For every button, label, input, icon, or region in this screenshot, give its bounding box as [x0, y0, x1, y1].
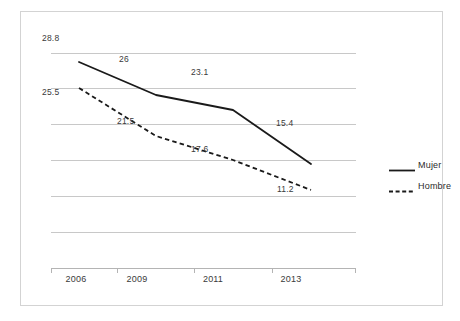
x-axis-tick-2 — [194, 268, 195, 273]
data-label-mujer-2009: 26 — [119, 54, 129, 64]
series-plot — [51, 47, 356, 275]
chart-frame: 28.8 26 23.1 15.4 25.5 21.5 17.6 11.2 20… — [20, 11, 443, 306]
x-tick-label-2009: 2009 — [117, 274, 157, 284]
x-tick-label-2011: 2011 — [193, 274, 233, 284]
x-tick-label-2006: 2006 — [56, 274, 96, 284]
chart-legend: Mujer Hombre — [389, 158, 460, 198]
data-label-hombre-2013: 11.2 — [277, 184, 294, 194]
x-tick-label-2013: 2013 — [271, 274, 311, 284]
legend-swatch-mujer-solid-line — [389, 161, 415, 170]
legend-swatch-hombre-dashed-line — [389, 182, 415, 191]
plot-area — [51, 47, 356, 275]
x-axis-tick-1 — [117, 268, 118, 273]
x-axis-tick-3 — [272, 268, 273, 273]
data-label-mujer-2011: 23.1 — [191, 67, 208, 77]
x-axis-tick-0 — [51, 268, 52, 273]
legend-entry-hombre[interactable]: Hombre — [389, 179, 451, 193]
x-axis-tick-4 — [355, 268, 356, 273]
data-label-mujer-2006: 28.8 — [42, 33, 59, 43]
legend-label-mujer: Mujer — [418, 160, 442, 170]
x-axis-line — [51, 268, 356, 269]
data-label-hombre-2006: 25.5 — [42, 87, 59, 97]
data-label-hombre-2011: 17.6 — [191, 144, 208, 154]
legend-entry-mujer[interactable]: Mujer — [389, 158, 442, 172]
data-label-mujer-2013: 15.4 — [276, 118, 293, 128]
legend-label-hombre: Hombre — [418, 181, 451, 191]
data-label-hombre-2009: 21.5 — [117, 116, 134, 126]
line-chart: 28.8 26 23.1 15.4 25.5 21.5 17.6 11.2 20… — [0, 0, 460, 321]
